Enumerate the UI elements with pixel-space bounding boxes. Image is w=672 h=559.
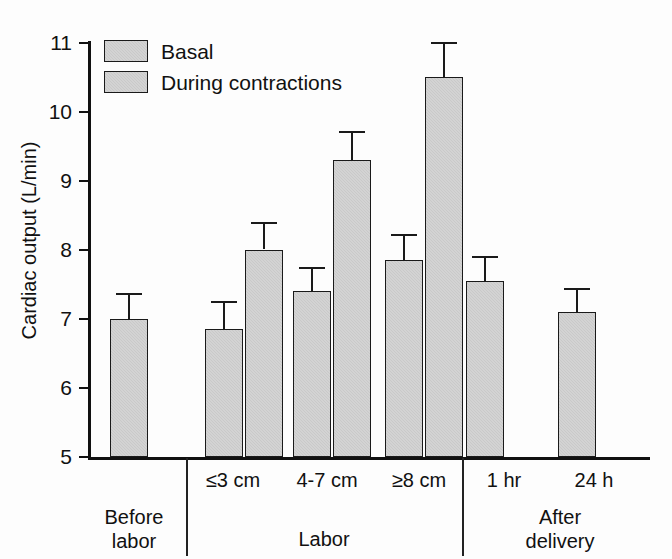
group-separator-1 <box>186 458 188 556</box>
group-label-line2: delivery <box>500 529 620 553</box>
x-label-8cm: ≥8 cm <box>376 470 462 490</box>
bar-during-contractions-1 <box>245 250 283 458</box>
group-label-line2: labor <box>82 529 186 553</box>
group-separator-2 <box>462 458 464 556</box>
bar-basal-1 <box>205 329 243 457</box>
x-label-4-7cm: 4-7 cm <box>282 470 372 490</box>
bar-basal-0 <box>110 319 148 457</box>
error-bar-cap-1-1 <box>251 222 277 224</box>
group-label-line1: Before <box>82 505 186 529</box>
error-bar-stem-0-3 <box>403 234 405 260</box>
error-bar-cap-0-5 <box>564 288 590 290</box>
bar-basal-2 <box>293 291 331 457</box>
error-bar-stem-0-4 <box>484 256 486 280</box>
error-bar-stem-1-3 <box>443 42 445 77</box>
group-label-line1: After <box>500 505 620 529</box>
error-bar-cap-1-3 <box>431 42 457 44</box>
x-label-3cm: ≤3 cm <box>190 470 276 490</box>
bar-basal-3 <box>385 260 423 457</box>
error-bar-cap-0-0 <box>116 293 142 295</box>
bar-during-contractions-2 <box>333 160 371 457</box>
bar-during-contractions-3 <box>425 77 463 457</box>
error-bar-cap-0-3 <box>391 234 417 236</box>
error-bar-stem-1-1 <box>263 222 265 250</box>
group-label-labor: Labor <box>272 527 376 551</box>
error-bar-cap-0-4 <box>472 256 498 258</box>
group-label-line1: Labor <box>272 527 376 551</box>
bar-basal-4 <box>466 281 504 457</box>
error-bar-stem-0-1 <box>223 301 225 329</box>
error-bar-stem-0-5 <box>576 288 578 312</box>
error-bar-cap-0-1 <box>211 301 237 303</box>
group-label-after-delivery: After delivery <box>500 505 620 553</box>
error-bar-cap-0-2 <box>299 267 325 269</box>
x-label-24h: 24 h <box>554 470 634 490</box>
error-bar-stem-0-2 <box>311 267 313 291</box>
chart-figure: Cardiac output (L/min) 11 10 9 8 7 6 5 B… <box>0 0 672 559</box>
group-label-before-labor: Before labor <box>82 505 186 553</box>
x-label-1hr: 1 hr <box>466 470 542 490</box>
error-bar-cap-1-2 <box>339 131 365 133</box>
error-bar-stem-1-2 <box>351 131 353 160</box>
bar-basal-5 <box>558 312 596 457</box>
error-bar-stem-0-0 <box>128 293 130 319</box>
